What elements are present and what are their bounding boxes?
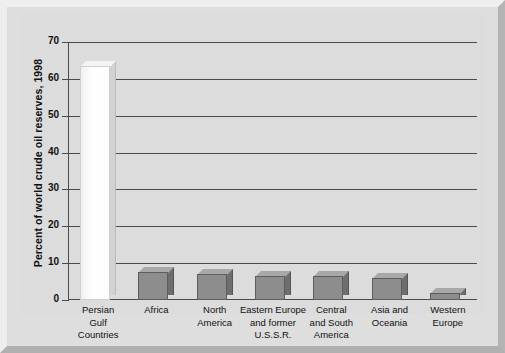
x-axis-label-line: America (292, 329, 370, 342)
y-axis-tick-label: 40 (48, 146, 59, 157)
chart-figure: Percent of world crude oil reserves, 199… (0, 0, 505, 353)
bar (430, 293, 460, 300)
bar-front-face (430, 293, 460, 300)
y-axis-title: Percent of world crude oil reserves, 199… (32, 38, 44, 288)
bar (255, 276, 285, 300)
bar (372, 278, 402, 300)
bar-slot (302, 42, 360, 300)
y-axis-tick-label: 10 (48, 256, 59, 267)
y-axis-tick (62, 116, 69, 117)
y-axis-tick (62, 42, 69, 43)
gridline (69, 300, 477, 301)
bar-front-face (197, 274, 227, 300)
y-axis-tick-label: 50 (48, 109, 59, 120)
bar-slot (419, 42, 477, 300)
bar-front-face (138, 272, 168, 300)
bar (313, 276, 343, 300)
y-axis-tick-label: 30 (48, 182, 59, 193)
y-axis-tick-label: 20 (48, 219, 59, 230)
x-axis-label-line: Europe (409, 317, 487, 330)
y-axis-tick (62, 226, 69, 227)
y-axis-tick (62, 153, 69, 154)
x-axis-label-line: Gulf (59, 317, 137, 330)
x-axis-label-line: Western (409, 304, 487, 317)
y-axis-tick-label: 60 (48, 72, 59, 83)
y-axis-tick (62, 79, 69, 80)
x-axis-label-line: Countries (59, 329, 137, 342)
chart-panel: Percent of world crude oil reserves, 199… (7, 7, 498, 346)
x-axis-label: WesternEurope (409, 304, 487, 329)
bar (80, 66, 110, 300)
bar-slot (186, 42, 244, 300)
bar-slot (360, 42, 418, 300)
bar-front-face (372, 278, 402, 300)
y-axis-tick (62, 300, 69, 301)
bar-slot (127, 42, 185, 300)
bar-slot (244, 42, 302, 300)
bar-side-face (110, 61, 116, 295)
plot-area: 010203040506070 (69, 42, 477, 300)
bar-series (69, 42, 477, 300)
bar-front-face (313, 276, 343, 300)
bar-slot (69, 42, 127, 300)
y-axis-tick-label: 0 (53, 293, 59, 304)
bar (138, 272, 168, 300)
bar (197, 274, 227, 300)
y-axis-tick-label: 70 (48, 35, 59, 46)
bar-front-face (80, 66, 110, 300)
bar-front-face (255, 276, 285, 300)
x-axis-labels: PersianGulfCountriesAfricaNorthAmericaEa… (69, 304, 477, 353)
y-axis-tick (62, 189, 69, 190)
y-axis-tick (62, 263, 69, 264)
